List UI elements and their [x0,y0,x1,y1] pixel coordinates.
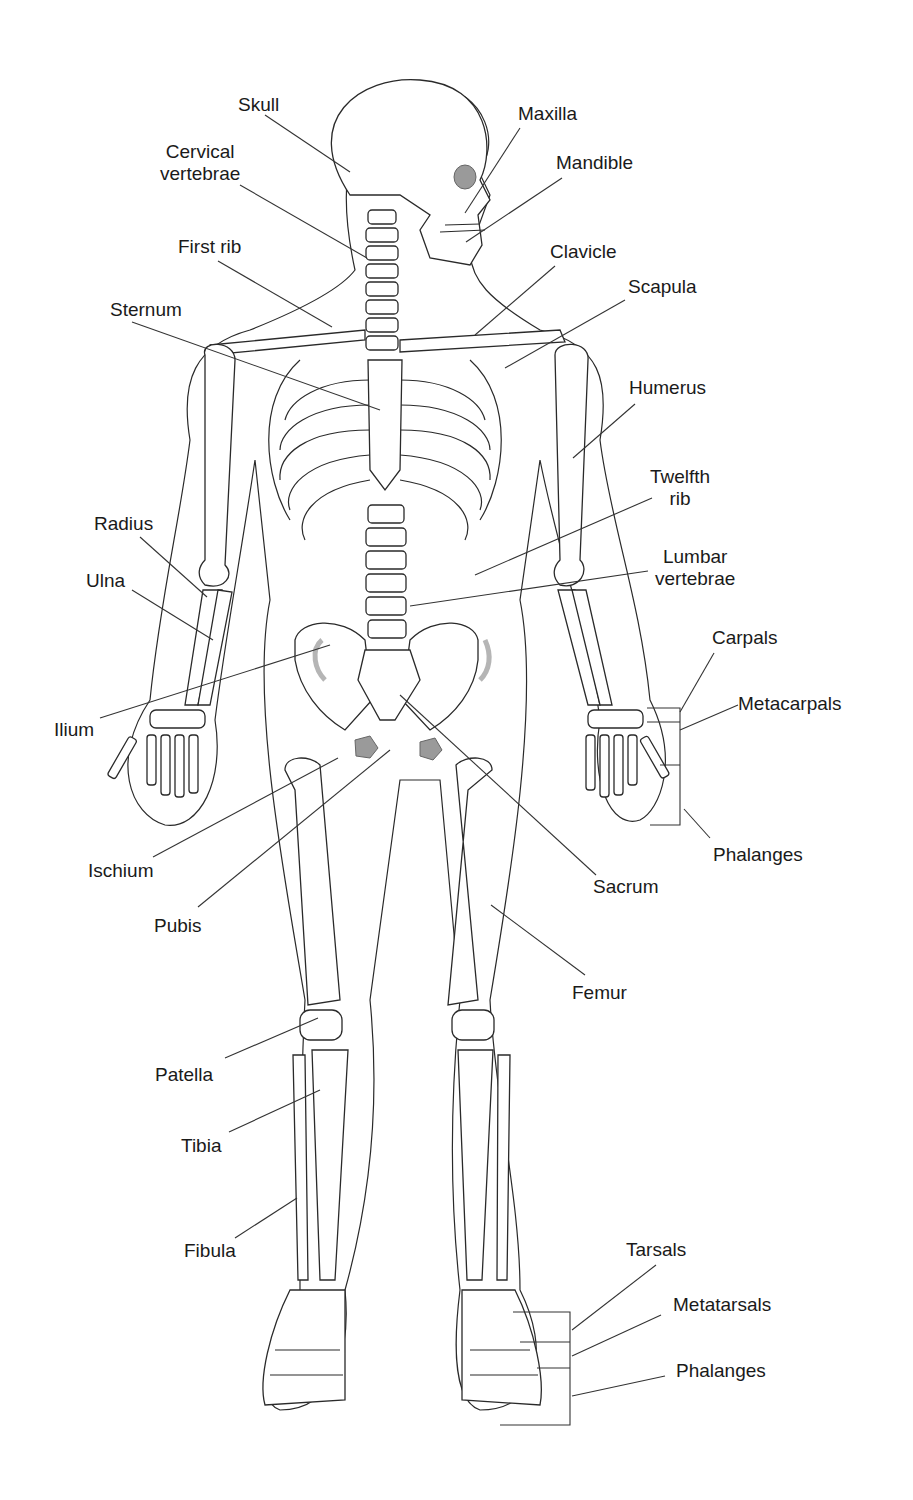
label-sternum: Sternum [110,299,182,321]
label-twelfth-rib: Twelfth rib [650,466,710,510]
label-metatarsals: Metatarsals [673,1294,771,1316]
label-tibia: Tibia [181,1135,221,1157]
label-radius: Radius [94,513,153,535]
label-phalanges-hand: Phalanges [713,844,803,866]
label-phalanges-foot: Phalanges [676,1360,766,1382]
label-carpals: Carpals [712,627,777,649]
label-sacrum: Sacrum [593,876,658,898]
label-metacarpals: Metacarpals [738,693,842,715]
label-first-rib: First rib [178,236,241,258]
label-ilium: Ilium [54,719,94,741]
label-mandible: Mandible [556,152,633,174]
label-clavicle: Clavicle [550,241,617,263]
label-skull: Skull [238,94,279,116]
label-humerus: Humerus [629,377,706,399]
skeleton-drawing [0,0,913,1500]
label-cervical-vertebrae: Cervical vertebrae [160,141,240,185]
label-ulna: Ulna [86,570,125,592]
label-pubis: Pubis [154,915,202,937]
label-ischium: Ischium [88,860,153,882]
label-lumbar-vertebrae: Lumbar vertebrae [655,546,735,590]
label-maxilla: Maxilla [518,103,577,125]
label-tarsals: Tarsals [626,1239,686,1261]
label-patella: Patella [155,1064,213,1086]
skeleton-diagram: Skull Maxilla Cervical vertebrae Mandibl… [0,0,913,1500]
label-fibula: Fibula [184,1240,236,1262]
label-scapula: Scapula [628,276,697,298]
label-femur: Femur [572,982,627,1004]
